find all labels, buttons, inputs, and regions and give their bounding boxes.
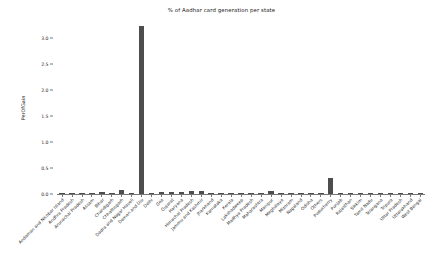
bar-slot [415,22,425,194]
x-tick-slot [107,194,117,197]
x-tick-slot [226,194,236,197]
y-axis-tick: 1.0 [41,139,57,144]
y-tick-mark [50,194,53,195]
bar-slot [157,22,167,194]
x-tick-mark [340,194,341,197]
x-tick-mark [320,194,321,197]
x-tick-slot [57,194,67,197]
bar-slot [316,22,326,194]
x-tick-slot [256,194,266,197]
y-axis-tick: 3.0 [41,35,57,40]
x-tick-slot [306,194,316,197]
bar-slot [127,22,137,194]
bar-slot [166,22,176,194]
plot-area: 0.00.51.01.52.02.53.0 [57,22,425,194]
y-tick-mark [50,142,53,143]
x-label-slot: Delhi [147,198,157,258]
x-tick-slot [196,194,206,197]
x-tick-slot [176,194,186,197]
bar-slot [97,22,107,194]
bar-slot [296,22,306,194]
x-tick-mark [310,194,311,197]
y-axis-tick: 2.0 [41,87,57,92]
bar-slot [216,22,226,194]
x-tick-mark [350,194,351,197]
x-tick-mark [62,194,63,197]
y-tick-mark [50,89,53,90]
bar-slot [147,22,157,194]
x-tick-slot [77,194,87,197]
bar-slot [137,22,147,194]
bar-slot [186,22,196,194]
x-tick-slot [326,194,336,197]
bar-slot [366,22,376,194]
bar-slot [67,22,77,194]
x-tick-mark [181,194,182,197]
y-axis-label: PerOfGain [20,96,26,121]
x-label-slot: West Bengal [415,198,425,258]
bar-slot [77,22,87,194]
x-tick-mark [82,194,83,197]
x-tick-slot [296,194,306,197]
bar-slot [326,22,336,194]
y-tick-mark [50,63,53,64]
bar-slot [87,22,97,194]
x-tick-slot [67,194,77,197]
x-tick-mark [151,194,152,197]
x-tick-slot [356,194,366,197]
bar-slot [246,22,256,194]
x-tick-slot [346,194,356,197]
x-tick-slot [415,194,425,197]
bar [328,178,334,194]
bar-slot [176,22,186,194]
x-tick-mark [241,194,242,197]
bar-slot [336,22,346,194]
x-tick-mark [131,194,132,197]
x-tick-slot [147,194,157,197]
y-axis-tick: 0.0 [41,192,57,197]
y-axis-tick: 1.5 [41,113,57,118]
x-tick-mark [201,194,202,197]
bar-slot [405,22,415,194]
x-tick-mark [360,194,361,197]
bar-slot [286,22,296,194]
x-tick-mark [72,194,73,197]
x-tick-slot [87,194,97,197]
bar-slot [226,22,236,194]
bar-slot [256,22,266,194]
y-tick-mark [50,37,53,38]
bar-slot [117,22,127,194]
bar [139,26,145,194]
x-tick-mark [261,194,262,197]
x-tick-mark [231,194,232,197]
x-tick-mark [291,194,292,197]
bar-slot [395,22,405,194]
bar-slot [346,22,356,194]
bar-slot [376,22,386,194]
x-axis-labels: Andaman and Nicobar IslandAndhra Pradesh… [57,198,425,258]
bar-slot [266,22,276,194]
x-tick-mark [271,194,272,197]
x-tick-mark [301,194,302,197]
x-tick-mark [420,194,421,197]
x-tick-mark [101,194,102,197]
bar-series [57,22,425,194]
bar-slot [206,22,216,194]
x-tick-mark [221,194,222,197]
y-axis-tick: 0.5 [41,165,57,170]
x-tick-slot [117,194,127,197]
chart-title: % of Aadhar card generation per state [0,7,443,13]
x-tick-slot [236,194,246,197]
bar-slot [236,22,246,194]
y-tick-mark [50,168,53,169]
x-tick-slot [316,194,326,197]
x-tick-mark [111,194,112,197]
bar-slot [196,22,206,194]
x-tick-mark [121,194,122,197]
bar-slot [276,22,286,194]
x-tick-slot [127,194,137,197]
x-tick-slot [216,194,226,197]
y-axis-tick: 2.5 [41,61,57,66]
bar-chart: % of Aadhar card generation per state Pe… [0,0,443,260]
bar-slot [57,22,67,194]
